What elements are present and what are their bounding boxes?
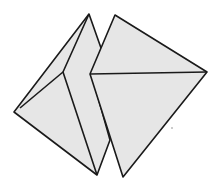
stray-dot: [171, 127, 173, 129]
folded-shapes-diagram: [0, 0, 222, 187]
right-shape-body: [90, 15, 207, 177]
left-shape-body: [14, 14, 110, 175]
right-shape: [90, 15, 207, 177]
left-shape: [14, 14, 110, 175]
